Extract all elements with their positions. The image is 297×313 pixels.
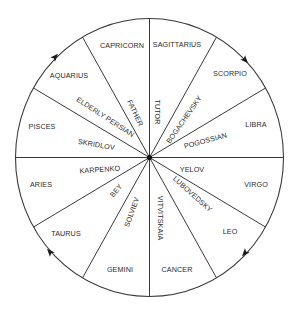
person-vitvitskaia: VITVITSKAIA: [156, 196, 165, 241]
center-hub: [147, 155, 152, 160]
sign-scorpio: SCORPIO: [213, 69, 247, 78]
sign-gemini: GEMINI: [107, 265, 133, 274]
person-father: FATHER: [125, 98, 145, 128]
sign-sagittarius: SAGITTARIUS: [153, 40, 202, 49]
sign-aquarius: AQUARIUS: [50, 71, 88, 80]
person-skridlov: SKRIDLOV: [77, 137, 115, 152]
person-bey: BEY: [108, 182, 124, 199]
person-karpenko: KARPENKO: [79, 164, 121, 176]
sign-cancer: CANCER: [162, 265, 193, 274]
direction-arrows: [45, 52, 251, 259]
person-tutor: TUTOR: [153, 99, 162, 124]
sign-pisces: PISCES: [29, 122, 56, 131]
arrow-lower-left-icon: [45, 247, 55, 257]
sign-aries: ARIES: [30, 180, 52, 189]
zodiac-wheel: CAPRICORN SAGITTARIUS SCORPIO LIBRA VIRG…: [0, 0, 297, 313]
person-yelov: YELOV: [180, 165, 205, 174]
sign-libra: LIBRA: [245, 120, 266, 129]
arrow-lower-right-icon: [240, 248, 250, 258]
sign-taurus: TAURUS: [51, 229, 81, 238]
sign-virgo: VIRGO: [244, 180, 268, 189]
person-labels: FATHER TUTOR BOGACHEVSKY POGOSSIAN YELOV…: [75, 94, 228, 241]
sign-leo: LEO: [223, 227, 238, 236]
sign-capricorn: CAPRICORN: [100, 41, 144, 50]
arrow-upper-left-icon: [50, 52, 60, 62]
